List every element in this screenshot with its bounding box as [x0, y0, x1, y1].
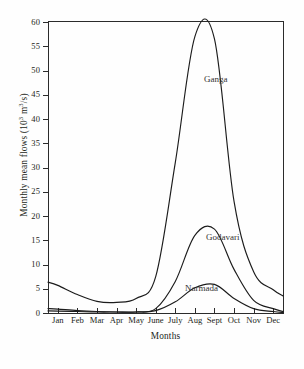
y-tick-label: 5: [0, 284, 40, 293]
y-axis-title: Monthly mean flows (103 m3/s): [19, 35, 29, 275]
x-tick-label: Dec: [260, 316, 286, 325]
y-tick-label: 0: [0, 309, 40, 318]
x-axis-line: [47, 313, 284, 314]
y-tick: [43, 313, 48, 314]
y-axis-title-text: Monthly mean flows (103 m3/s): [19, 93, 29, 216]
figure: 051015202530354045505560 JanFebMarAprMay…: [0, 0, 304, 369]
series-label-ganga: Ganga: [204, 75, 228, 84]
series-line-godavari: [48, 226, 283, 312]
series-label-godavari: Godavari: [206, 233, 240, 242]
series-line-ganga: [48, 19, 283, 303]
plot-area: [48, 22, 283, 313]
series-label-narmada: Narmada: [185, 284, 218, 293]
plot-right-border: [283, 21, 284, 314]
x-axis-title: Months: [48, 331, 283, 341]
series-lines: [48, 22, 283, 313]
y-tick-label: 60: [0, 18, 40, 27]
